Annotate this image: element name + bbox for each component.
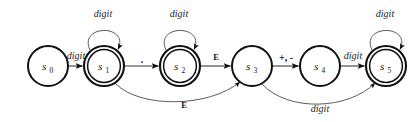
state-node-s5[interactable]: s 5 <box>366 46 406 86</box>
state-node-s0[interactable]: s 0 <box>28 46 68 86</box>
state-node-s1[interactable]: s 1 <box>84 46 124 86</box>
state-node-s2[interactable]: s 2 <box>160 46 200 86</box>
transition-label-s3-s5: digit <box>311 103 330 114</box>
state-circle-inner <box>370 50 403 83</box>
state-subscript-s1: 1 <box>106 66 110 75</box>
state-label-s0: s <box>42 60 46 72</box>
state-circle-inner <box>164 50 197 83</box>
state-label-s4: s <box>314 60 318 72</box>
state-subscript-s2: 2 <box>182 66 186 75</box>
transition-label-s0-s1: digit <box>67 50 86 61</box>
transition-label-s1-s2: . <box>141 54 144 65</box>
transition-label-s3-s4: +, - <box>279 52 293 63</box>
fsa-canvas: s 0 s 1 s 2 s 3 s 4 <box>0 0 417 122</box>
state-circle-outer <box>232 46 272 86</box>
state-node-s3[interactable]: s 3 <box>232 46 272 86</box>
state-subscript-s4: 4 <box>322 66 326 75</box>
state-label-s2: s <box>174 60 178 72</box>
state-circle-inner <box>88 50 121 83</box>
state-subscript-s0: 0 <box>50 66 54 75</box>
state-node-s4[interactable]: s 4 <box>300 46 340 86</box>
state-subscript-s3: 3 <box>254 66 258 75</box>
transition-label-s2-self: digit <box>170 8 189 19</box>
state-label-s5: s <box>380 60 384 72</box>
state-subscript-s5: 5 <box>388 66 392 75</box>
transition-label-s2-s3: E <box>213 52 219 62</box>
state-label-s3: s <box>246 60 250 72</box>
transition-label-s5-self: digit <box>376 8 395 19</box>
transition-label-s1-s3: E <box>181 100 187 110</box>
state-circle-outer <box>28 46 68 86</box>
fsa-diagram: s 0 s 1 s 2 s 3 s 4 <box>0 0 417 122</box>
transition-label-s4-s5: digit <box>344 50 363 61</box>
state-label-s1: s <box>98 60 102 72</box>
state-circle-outer <box>300 46 340 86</box>
transition-label-s1-self: digit <box>94 8 113 19</box>
